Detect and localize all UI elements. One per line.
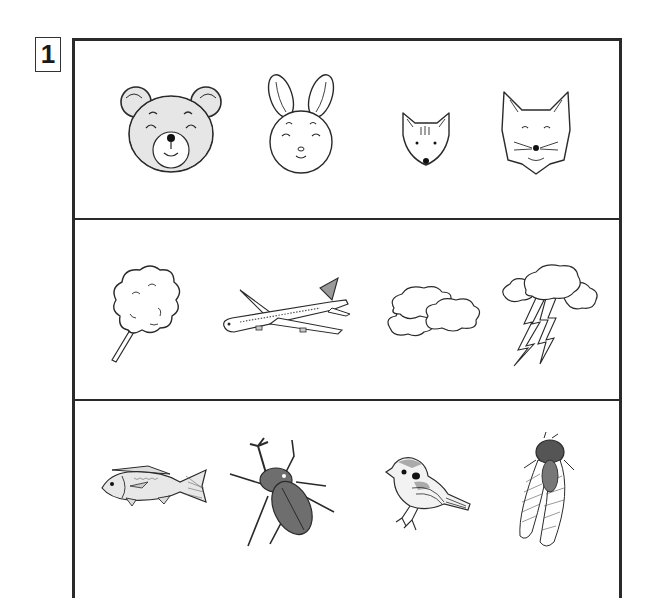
cicada-icon bbox=[514, 432, 578, 552]
squirrel-face-icon bbox=[399, 109, 453, 169]
airplane-icon bbox=[220, 274, 352, 344]
question-number: 1 bbox=[41, 39, 55, 70]
row-divider-1 bbox=[72, 218, 622, 220]
rabbit-face-icon bbox=[264, 74, 338, 174]
rhinoceros-beetle-icon bbox=[228, 436, 338, 548]
bear-face-icon bbox=[118, 84, 224, 174]
row-divider-2 bbox=[72, 399, 622, 401]
fox-face-icon bbox=[500, 90, 572, 176]
sparrow-icon bbox=[382, 454, 472, 534]
cotton-candy-icon bbox=[108, 264, 184, 368]
question-number-box: 1 bbox=[35, 37, 61, 72]
fish-icon bbox=[100, 460, 210, 508]
thundercloud-lightning-icon bbox=[500, 264, 600, 368]
clouds-icon bbox=[384, 284, 482, 342]
